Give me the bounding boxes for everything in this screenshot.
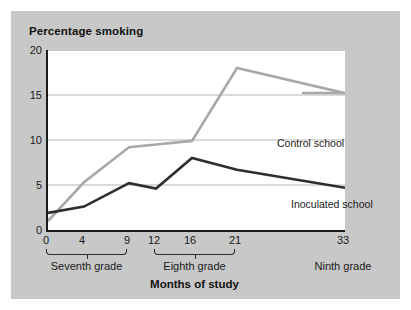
group-bracket-stem — [195, 255, 196, 259]
annotation-inoculated-school: Inoculated school — [291, 198, 373, 210]
x-tick-label: 9 — [124, 234, 130, 246]
y-tick-label: 0 — [20, 224, 42, 236]
group-bracket — [154, 249, 235, 255]
x-tick-label: 16 — [184, 234, 196, 246]
group-bracket-stem — [87, 255, 88, 259]
x-axis-title: Months of study — [46, 278, 343, 290]
plot-area: Control school Inoculated school — [46, 50, 345, 232]
group-label: Seventh grade — [51, 260, 123, 272]
x-tick-label: 4 — [79, 234, 85, 246]
figure-container: Percentage smoking 05101520 Control scho… — [0, 0, 411, 310]
y-tick-label: 10 — [20, 134, 42, 146]
group-bracket — [46, 249, 127, 255]
gridlines — [48, 50, 345, 185]
y-axis-tick-labels: 05101520 — [18, 50, 42, 230]
y-tick-label: 15 — [20, 89, 42, 101]
x-axis-tick-labels: 04912162133 — [46, 234, 343, 250]
x-tick-label: 21 — [229, 234, 241, 246]
y-tick-label: 5 — [20, 179, 42, 191]
chart-title: Percentage smoking — [29, 25, 143, 37]
group-label: Ninth grade — [315, 260, 372, 272]
y-tick-label: 20 — [20, 44, 42, 56]
x-tick-label: 33 — [337, 234, 349, 246]
x-tick-label: 12 — [148, 234, 160, 246]
group-label: Eighth grade — [163, 260, 225, 272]
x-axis-group-brackets — [46, 249, 343, 259]
annotation-control-school: Control school — [277, 137, 344, 149]
x-tick-label: 0 — [43, 234, 49, 246]
x-axis-group-labels: Seventh gradeEighth gradeNinth grade — [20, 260, 400, 276]
